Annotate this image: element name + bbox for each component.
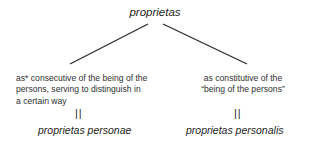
left-term-label: proprietas personae	[38, 124, 131, 136]
description-line: “being of the persons”	[178, 84, 308, 95]
edge-right	[163, 24, 247, 64]
left-equivalence-symbol: ||	[75, 107, 83, 119]
right-branch-description: as constitutive of the “being of the per…	[178, 73, 308, 96]
description-line: as* consecutive of the being of the	[16, 73, 166, 84]
description-line: a certain way	[16, 96, 166, 107]
right-equivalence-symbol: ||	[234, 107, 242, 119]
description-line: as constitutive of the	[178, 73, 308, 84]
right-term-label: proprietas personalis	[186, 124, 283, 136]
left-branch-description: as* consecutive of the being of the pers…	[16, 73, 166, 107]
description-line: persons, serving to distinguish in	[16, 84, 166, 95]
edge-left	[70, 24, 148, 64]
